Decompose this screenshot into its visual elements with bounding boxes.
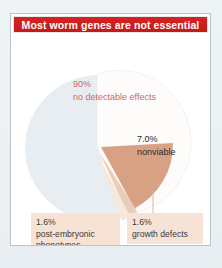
pie-label-no-detectable-effects: 90% no detectable effects — [73, 78, 156, 103]
pie-label-nonviable: 7.0% nonviable — [137, 133, 176, 158]
callout-growth-defects: 1.6% growth defects — [127, 213, 203, 244]
figure-title: Most worm genes are not essential — [22, 19, 200, 31]
figure-title-bar: Most worm genes are not essential — [13, 16, 208, 33]
pie-chart: 90% no detectable effects 7.0% nonviable… — [11, 33, 210, 245]
callout-post-embryonic-phenotypes: 1.6% post-embryonic phenotypes — [31, 213, 120, 246]
figure-panel: Most worm genes are not essential 90% no… — [10, 13, 211, 246]
